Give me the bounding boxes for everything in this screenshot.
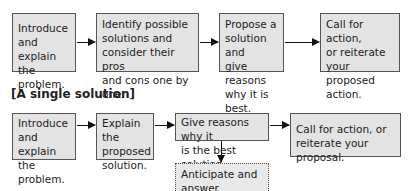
- step-call-for-action: Call for action, or reiterate your propo…: [320, 13, 400, 72]
- step-propose-solution: Propose a solution and give reasons why …: [219, 13, 284, 72]
- step-text: Anticipate and answer questions.: [181, 167, 263, 191]
- arrow-right: [200, 42, 218, 43]
- step-introduce-problem: Introduce and explain the problem.: [12, 13, 76, 72]
- section-heading: [A single solution]: [11, 87, 135, 101]
- step-text: Propose a solution and give reasons why …: [225, 17, 278, 115]
- arrow-down: [221, 141, 222, 162]
- arrow-right: [77, 42, 95, 43]
- step-give-reasons: Give reasons why it is the best solution…: [175, 113, 269, 141]
- step-introduce-problem: Introduce and explain the problem.: [12, 113, 76, 160]
- arrow-right: [155, 125, 174, 126]
- step-text: Call for action, or reiterate your propo…: [326, 17, 394, 101]
- step-text: Explain the proposed solution.: [102, 116, 148, 172]
- step-call-for-action: Call for action, or reiterate your propo…: [290, 113, 401, 157]
- step-text: Introduce and explain the problem.: [18, 116, 70, 186]
- optional-step-anticipate-questions: Anticipate and answer questions.: [175, 163, 269, 191]
- step-text: Call for action, or reiterate your propo…: [296, 122, 395, 164]
- step-identify-solutions: Identify possible solutions and consider…: [96, 13, 199, 72]
- arrow-right: [285, 42, 319, 43]
- step-explain-solution: Explain the proposed solution.: [96, 113, 154, 160]
- arrow-right: [270, 125, 289, 126]
- step-text: Introduce and explain the problem.: [18, 21, 70, 91]
- arrow-right: [77, 125, 95, 126]
